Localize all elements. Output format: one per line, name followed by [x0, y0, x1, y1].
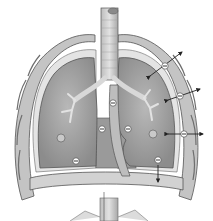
- negative-pressure-icon: [177, 93, 183, 99]
- second-diagram-partial: [70, 192, 148, 221]
- negative-pressure-icon: [125, 126, 131, 132]
- negative-pressure-icon: [181, 131, 187, 137]
- diaphragm: [30, 172, 183, 190]
- diagram-stage: [0, 0, 213, 221]
- alveolus-right: [149, 130, 157, 138]
- negative-pressure-icon: [162, 63, 168, 69]
- alveolus-left: [57, 134, 65, 142]
- negative-pressure-icon: [155, 157, 161, 163]
- trachea: [101, 8, 118, 80]
- negative-pressure-icon: [110, 100, 116, 106]
- negative-pressure-icon: [73, 158, 79, 164]
- lung-diagram: [0, 0, 213, 221]
- negative-pressure-icon: [99, 126, 105, 132]
